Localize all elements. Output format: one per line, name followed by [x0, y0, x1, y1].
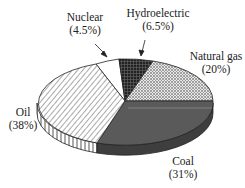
label-oil-name: Oil [8, 106, 38, 119]
label-natural-gas-pct: (20%) [186, 63, 245, 76]
label-nuclear-name: Nuclear [63, 11, 107, 24]
label-nuclear-pct: (4.5%) [63, 24, 107, 37]
label-oil: Oil (38%) [8, 106, 38, 132]
hydro-arrow [142, 40, 145, 52]
label-hydroelectric: Hydroelectric (6.5%) [122, 7, 194, 33]
label-hydroelectric-pct: (6.5%) [122, 20, 194, 33]
label-coal: Coal (31%) [165, 155, 201, 181]
label-coal-pct: (31%) [165, 168, 201, 181]
label-arrows [95, 40, 145, 57]
label-nuclear: Nuclear (4.5%) [63, 11, 107, 37]
label-oil-pct: (38%) [8, 119, 38, 132]
label-natural-gas-name: Natural gas [186, 50, 245, 63]
label-hydroelectric-name: Hydroelectric [122, 7, 194, 20]
label-natural-gas: Natural gas (20%) [186, 50, 245, 76]
label-coal-name: Coal [165, 155, 201, 168]
